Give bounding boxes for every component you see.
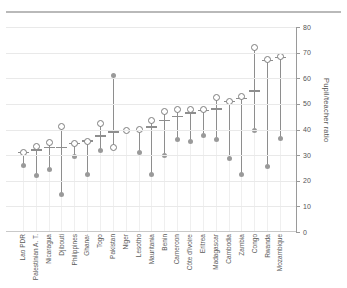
y-axis-label: Pupil/teacher ratio [322, 78, 331, 142]
median-dash-marker[interactable] [108, 131, 119, 132]
median-dash-marker[interactable] [211, 108, 222, 109]
filled-circle-marker[interactable] [201, 133, 206, 138]
stem-extension [74, 156, 75, 232]
range-stem [241, 96, 242, 174]
open-circle-marker[interactable] [71, 140, 78, 147]
open-circle-marker[interactable] [264, 56, 271, 63]
gridline [6, 27, 296, 28]
range-stem [203, 109, 204, 136]
x-axis-label: Cambodia [226, 234, 233, 264]
stem-extension [241, 174, 242, 232]
y-axis-tick [296, 27, 300, 28]
x-axis-label: Ghana¹ [84, 234, 91, 256]
open-circle-marker[interactable] [97, 120, 104, 127]
y-axis-tick-label: 30 [303, 152, 311, 159]
stem-extension [216, 140, 217, 232]
gridline [6, 104, 296, 105]
range-stem [164, 112, 165, 156]
open-circle-marker[interactable] [277, 53, 284, 60]
open-circle-marker[interactable] [161, 108, 168, 115]
x-axis-label: Côte d'Ivoire [187, 234, 194, 270]
filled-circle-marker[interactable] [227, 156, 232, 161]
y-axis-tick [296, 104, 300, 105]
x-axis-label: Lesotho [136, 234, 143, 257]
stem-extension [229, 159, 230, 232]
median-dash-marker[interactable] [95, 135, 106, 136]
open-circle-marker[interactable] [174, 106, 181, 113]
stem-extension [203, 136, 204, 232]
plot-area [6, 27, 296, 232]
filled-circle-marker[interactable] [85, 172, 90, 177]
x-axis-label: Rwanda [265, 234, 272, 258]
x-axis-label: Pakistan [110, 234, 117, 259]
range-stem [254, 48, 255, 131]
x-axis-label: Nicaragua [46, 234, 53, 264]
x-axis-label: Eritrea [200, 234, 207, 253]
y-axis-tick [296, 155, 300, 156]
x-axis-label: Palestinian A. T. [33, 234, 40, 280]
open-circle-marker[interactable] [200, 106, 207, 113]
y-axis-tick [296, 206, 300, 207]
filled-circle-marker[interactable] [239, 172, 244, 177]
range-stem [61, 127, 62, 195]
y-axis-tick-label: 20 [303, 177, 311, 184]
stem-extension [23, 165, 24, 232]
median-dash-marker[interactable] [44, 147, 55, 148]
open-circle-marker[interactable] [213, 94, 220, 101]
stem-extension [267, 167, 268, 232]
x-axis-label: Congo [252, 234, 259, 253]
open-circle-marker[interactable] [84, 138, 91, 145]
stem-extension [100, 150, 101, 232]
y-axis-tick-label: 0 [303, 229, 307, 236]
open-circle-marker[interactable] [187, 106, 194, 113]
range-stem [177, 109, 178, 140]
median-dash-marker[interactable] [159, 120, 170, 121]
x-axis-label: Mauritania [149, 234, 156, 264]
median-dash-marker[interactable] [249, 90, 260, 91]
x-axis-label: Philippines [72, 234, 79, 265]
stem-extension [113, 147, 114, 232]
x-axis-label: Lao PDR [20, 234, 27, 260]
range-stem [190, 109, 191, 141]
x-axis-label: Mozambique [277, 234, 284, 271]
y-axis-tick-label: 80 [303, 24, 311, 31]
gridline [6, 181, 296, 182]
y-axis-tick-label: 70 [303, 49, 311, 56]
stem-extension [280, 138, 281, 232]
x-axis-label: Madagascar [213, 234, 220, 270]
stem-extension [177, 140, 178, 232]
median-dash-marker[interactable] [172, 116, 183, 117]
filled-circle-marker[interactable] [278, 136, 283, 141]
filled-circle-marker[interactable] [21, 163, 26, 168]
filled-circle-marker[interactable] [98, 148, 103, 153]
open-circle-marker[interactable] [46, 139, 53, 146]
stem-extension [87, 174, 88, 232]
median-dash-marker[interactable] [146, 126, 157, 127]
open-circle-marker[interactable] [148, 117, 155, 124]
x-axis-label: Zambia [239, 234, 246, 256]
stem-extension [49, 169, 50, 232]
open-circle-marker[interactable] [110, 144, 117, 151]
chart-root: 01020304050607080 Pupil/teacher ratio La… [0, 0, 347, 288]
filled-circle-marker[interactable] [149, 172, 154, 177]
range-stem [267, 59, 268, 167]
gridline [6, 78, 296, 79]
filled-circle-marker[interactable] [59, 192, 64, 197]
stem-extension [36, 176, 37, 232]
median-dash-marker[interactable] [56, 147, 67, 148]
x-axis-label: Cameroon [174, 234, 181, 264]
filled-circle-marker[interactable] [188, 139, 193, 144]
stem-extension [139, 153, 140, 232]
filled-circle-marker[interactable] [214, 137, 219, 142]
y-axis-tick [296, 232, 300, 233]
y-axis-tick-label: 40 [303, 126, 311, 133]
filled-circle-marker[interactable] [175, 137, 180, 142]
open-circle-marker[interactable] [123, 127, 130, 134]
open-circle-marker[interactable] [33, 143, 40, 150]
y-axis-tick [296, 181, 300, 182]
open-circle-marker[interactable] [251, 44, 258, 51]
gridline [6, 130, 296, 131]
filled-circle-marker[interactable] [34, 173, 39, 178]
filled-circle-marker[interactable] [47, 167, 52, 172]
filled-circle-marker[interactable] [265, 164, 270, 169]
